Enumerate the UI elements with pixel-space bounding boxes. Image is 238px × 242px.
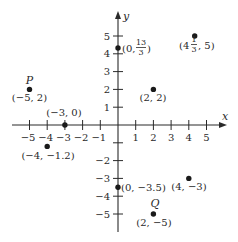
y-tick-label: −3: [95, 173, 110, 184]
x-tick-labels: −5 −4 −3 −2 −1 1 2 3 4 5: [21, 132, 210, 143]
label-0-13-3-den: 3: [138, 48, 143, 57]
y-tick-label: −2: [95, 155, 110, 166]
x-tick-label: −3: [56, 132, 71, 143]
y-tick-label: −5: [95, 209, 110, 220]
label-4-1-3-5-open: (4: [179, 40, 189, 51]
label-0-13-3-open: (0,: [122, 43, 135, 54]
y-axis-label: y: [122, 10, 130, 23]
label-P: (−5, 2): [12, 92, 47, 103]
label-Q: (2, −5): [136, 217, 171, 228]
coordinate-plane: x y −5 −4 −3 −2 −1 1 2 3 4 5: [0, 0, 238, 242]
x-tick-label: −4: [38, 132, 53, 143]
x-tick-label: −5: [21, 132, 36, 143]
y-tick-label: 1: [104, 102, 110, 113]
y-tick-label: 3: [104, 66, 110, 77]
label-Q-name: Q: [150, 197, 159, 210]
x-tick-label: 2: [150, 132, 156, 143]
point-Q: [151, 211, 156, 216]
label-neg3-0: (−3, 0): [46, 107, 81, 118]
label-0-13-3-close: ): [147, 43, 151, 54]
label-neg4-neg1-2: (−4, −1.2): [21, 150, 74, 161]
label-4-1-3-5-close: , 5): [198, 40, 215, 51]
x-tick-label: −1: [91, 132, 106, 143]
y-tick-label: −4: [95, 191, 110, 202]
point-neg3-0: [62, 122, 67, 127]
y-tick-label: 2: [104, 84, 110, 95]
label-4-neg3: (4, −3): [171, 181, 206, 192]
label-2-2: (2, 2): [140, 92, 167, 103]
point-neg4-neg1-2: [45, 144, 50, 149]
x-tick-label: 4: [186, 132, 192, 143]
point-0-neg3-5: [115, 185, 120, 190]
x-tick-label: 1: [133, 132, 139, 143]
x-axis-label: x: [222, 110, 229, 123]
x-tick-label: 3: [168, 132, 174, 143]
x-tick-label: −2: [74, 132, 89, 143]
y-tick-label: 5: [104, 31, 110, 42]
label-4-1-3-5-num: 1: [191, 35, 196, 44]
y-tick-label: 4: [104, 48, 110, 59]
x-tick-label: 5: [203, 132, 209, 143]
point-0-13-3: [115, 45, 120, 50]
label-0-neg3-5: (0, −3.5): [121, 182, 166, 193]
y-axis-arrow-icon: [115, 11, 121, 19]
label-0-13-3-num: 13: [136, 38, 146, 47]
label-4-1-3-5-den: 3: [191, 45, 196, 54]
label-P-name: P: [25, 74, 34, 87]
